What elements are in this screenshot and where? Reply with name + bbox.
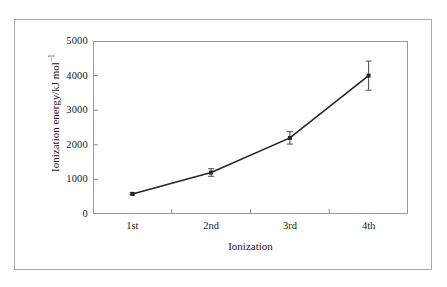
x-tick-label-1st: 1st <box>126 220 138 232</box>
data-marker-4th <box>367 74 371 78</box>
y-tick-label-0: 0 <box>44 209 88 220</box>
y-axis-title-text: Ionization energy/kJ mol <box>49 62 61 172</box>
y-axis-title: Ionization energy/kJ mol−1 <box>49 28 61 198</box>
x-tick-label-4th: 4th <box>362 220 375 232</box>
y-axis-ticks <box>93 76 98 180</box>
data-markers <box>130 74 370 196</box>
chart-figure: 5000 4000 3000 2000 1000 0 <box>0 0 447 287</box>
x-tick-label-2nd: 2nd <box>203 220 219 232</box>
plot-canvas <box>93 41 408 214</box>
x-axis-ticks <box>172 209 330 214</box>
data-line-ionization-energy <box>132 76 368 194</box>
y-axis-title-exponent: −1 <box>47 54 56 62</box>
data-marker-1st <box>130 192 134 196</box>
data-marker-3rd <box>288 136 292 140</box>
error-bars <box>129 61 371 195</box>
x-tick-label-3rd: 3rd <box>283 220 297 232</box>
data-marker-2nd <box>209 171 213 175</box>
x-axis-title: Ionization <box>93 240 408 252</box>
x-axis-tick-labels: 1st 2nd 3rd 4th <box>93 220 408 236</box>
